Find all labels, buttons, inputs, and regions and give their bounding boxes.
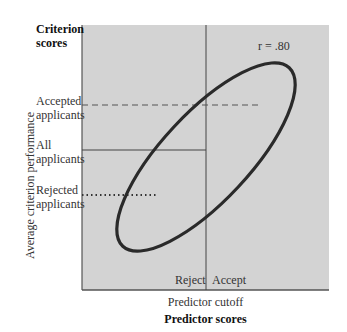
selection-diagram: r = .80 Reject Accept Criterion scores A…	[0, 0, 347, 332]
reject-region-label: Reject	[175, 273, 206, 287]
correlation-label: r = .80	[258, 39, 290, 53]
rejected-applicants-label: Rejected applicants	[36, 183, 85, 211]
predictor-cutoff-label: Predictor cutoff	[82, 295, 329, 309]
all-applicants-label: All applicants	[36, 138, 85, 166]
x-axis-title: Predictor scores	[82, 312, 329, 326]
accepted-applicants-label: Accepted applicants	[36, 94, 85, 122]
y-axis-title: Criterion scores	[36, 22, 84, 50]
accept-region-label: Accept	[212, 273, 247, 287]
